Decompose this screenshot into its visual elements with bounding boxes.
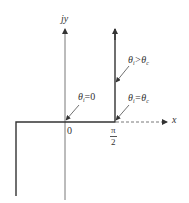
- pointer-theta-critical: [116, 105, 129, 120]
- y-axis-label: jy: [61, 14, 68, 24]
- annotation-theta-critical: θi=θc: [128, 93, 149, 104]
- pointer-theta-zero: [66, 105, 79, 120]
- pointer-theta-greater: [116, 66, 129, 82]
- x-axis-label: x: [172, 115, 176, 125]
- origin-label: 0: [67, 126, 72, 136]
- annotation-theta-zero: θi=0: [78, 92, 95, 103]
- contour-path: [16, 29, 115, 196]
- annotation-theta-greater: θi>θc: [128, 55, 149, 66]
- pi-over-two-label: π 2: [110, 126, 117, 147]
